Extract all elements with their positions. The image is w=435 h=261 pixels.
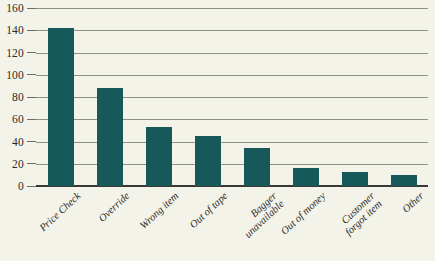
bar-slot bbox=[330, 8, 379, 186]
y-axis-tick-label: 140 bbox=[6, 24, 24, 36]
x-axis-label-line: Out of tape bbox=[187, 190, 229, 231]
y-axis-tick-mark bbox=[27, 141, 36, 142]
y-axis-tick-label: 100 bbox=[6, 69, 24, 81]
y-axis-tick-label: 20 bbox=[12, 158, 24, 170]
y-axis-tick-mark bbox=[27, 163, 36, 164]
x-axis-label-line: Wrong item bbox=[137, 190, 180, 231]
x-axis-label: Customerforgot item bbox=[335, 190, 384, 238]
plot-area: 020406080100120140160 bbox=[36, 8, 428, 186]
bar bbox=[146, 127, 172, 186]
x-axis-label-line: Other bbox=[400, 190, 426, 215]
y-axis-tick-mark bbox=[27, 74, 36, 75]
y-axis-tick-mark bbox=[27, 8, 36, 9]
x-axis-label: Price Check bbox=[37, 190, 82, 233]
y-axis-tick-mark bbox=[27, 97, 36, 98]
y-axis-tick: 0 bbox=[18, 180, 36, 192]
x-axis-label: Baggerunavailable bbox=[234, 190, 286, 240]
x-axis-label: Other bbox=[400, 190, 426, 215]
y-axis-tick: 140 bbox=[6, 24, 36, 36]
y-axis-tick-mark bbox=[27, 30, 36, 31]
bar-slot bbox=[379, 8, 428, 186]
bar bbox=[195, 136, 221, 186]
y-axis-tick-mark bbox=[27, 52, 36, 53]
y-axis-tick-mark bbox=[27, 186, 36, 187]
y-axis-tick: 80 bbox=[12, 91, 36, 103]
bar bbox=[48, 28, 74, 186]
x-axis-label-line: Price Check bbox=[37, 190, 82, 233]
y-axis-tick: 100 bbox=[6, 69, 36, 81]
bar-slot bbox=[183, 8, 232, 186]
y-axis-tick-label: 160 bbox=[6, 2, 24, 14]
bar-slot bbox=[85, 8, 134, 186]
bar bbox=[391, 175, 417, 186]
x-axis-label-line: Out of money bbox=[278, 190, 327, 237]
y-axis-tick: 60 bbox=[12, 113, 36, 125]
y-axis-tick-mark bbox=[27, 119, 36, 120]
bar bbox=[293, 168, 319, 186]
x-axis-label: Out of money bbox=[278, 190, 327, 237]
y-axis-tick-label: 0 bbox=[18, 180, 24, 192]
bar bbox=[244, 148, 270, 186]
x-axis-label-line: Override bbox=[96, 190, 131, 224]
bar-slot bbox=[281, 8, 330, 186]
bar-series bbox=[36, 8, 428, 186]
y-axis-tick: 120 bbox=[6, 47, 36, 59]
y-axis-tick-label: 80 bbox=[12, 91, 24, 103]
x-axis-label: Out of tape bbox=[187, 190, 229, 231]
bar bbox=[342, 172, 368, 186]
bar-slot bbox=[36, 8, 85, 186]
y-axis-tick-label: 60 bbox=[12, 113, 24, 125]
bar-chart: 020406080100120140160 Price CheckOverrid… bbox=[0, 0, 435, 261]
bar bbox=[97, 88, 123, 186]
x-axis-label: Wrong item bbox=[137, 190, 180, 231]
bar-slot bbox=[232, 8, 281, 186]
y-axis-tick: 160 bbox=[6, 2, 36, 14]
y-axis-tick-label: 120 bbox=[6, 47, 24, 59]
y-axis-tick-label: 40 bbox=[12, 136, 24, 148]
x-axis-label: Override bbox=[96, 190, 131, 224]
y-axis-tick: 40 bbox=[12, 136, 36, 148]
bar-slot bbox=[134, 8, 183, 186]
y-axis-tick: 20 bbox=[12, 158, 36, 170]
